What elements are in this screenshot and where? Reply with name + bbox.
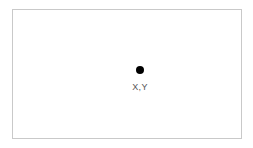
point-coordinate-label: X,Y <box>100 82 180 93</box>
drawing-canvas-root: X,Y <box>0 0 253 148</box>
canvas-frame[interactable]: X,Y <box>12 9 242 139</box>
filled-circle-icon[interactable] <box>136 66 144 74</box>
